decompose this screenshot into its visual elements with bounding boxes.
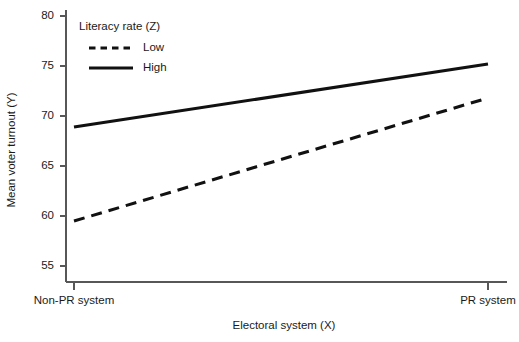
x-tick-label-pr-system: PR system [460, 294, 516, 306]
y-tick-label-60: 60 [41, 209, 54, 221]
series-group [74, 64, 488, 221]
y-tick-label-55: 55 [41, 259, 54, 271]
y-tick-label-65: 65 [41, 159, 54, 171]
legend-title: Literacy rate (Z) [79, 20, 160, 32]
x-tick-label-non-pr-system: Non-PR system [34, 294, 115, 306]
axes [66, 10, 507, 282]
x-axis-ticks: Non-PR system PR system [34, 282, 516, 306]
x-axis-title: Electoral system (X) [233, 319, 336, 331]
y-axis-ticks: 80 75 70 65 60 55 [41, 9, 66, 271]
legend-label-low: Low [143, 41, 165, 53]
chart-canvas: 80 75 70 65 60 55 Non-PR system PR syste… [0, 0, 519, 342]
interaction-plot: 80 75 70 65 60 55 Non-PR system PR syste… [0, 0, 519, 342]
y-axis-title: Mean voter turnout (Y) [5, 92, 17, 207]
legend: Literacy rate (Z) Low High [79, 20, 167, 73]
y-tick-label-70: 70 [41, 109, 54, 121]
y-tick-label-75: 75 [41, 59, 54, 71]
legend-label-high: High [143, 61, 167, 73]
y-tick-label-80: 80 [41, 9, 54, 21]
